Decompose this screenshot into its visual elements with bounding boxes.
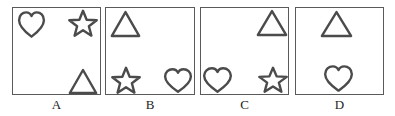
triangle-icon bbox=[321, 11, 352, 37]
star-icon bbox=[112, 67, 140, 94]
heart-icon bbox=[18, 11, 45, 38]
triangle-icon bbox=[69, 69, 97, 94]
option-label-b: B bbox=[105, 98, 195, 112]
triangle-icon bbox=[257, 10, 287, 36]
star-icon bbox=[259, 67, 287, 93]
option-label-d: D bbox=[295, 98, 384, 112]
heart-icon bbox=[203, 67, 232, 93]
heart-icon bbox=[324, 65, 353, 92]
triangle-icon bbox=[111, 11, 140, 37]
option-label-c: C bbox=[200, 98, 289, 112]
shape-arrangement-figure: ABCD bbox=[0, 0, 395, 116]
option-label-a: A bbox=[12, 98, 101, 112]
heart-icon bbox=[164, 68, 192, 93]
star-icon bbox=[69, 10, 97, 37]
